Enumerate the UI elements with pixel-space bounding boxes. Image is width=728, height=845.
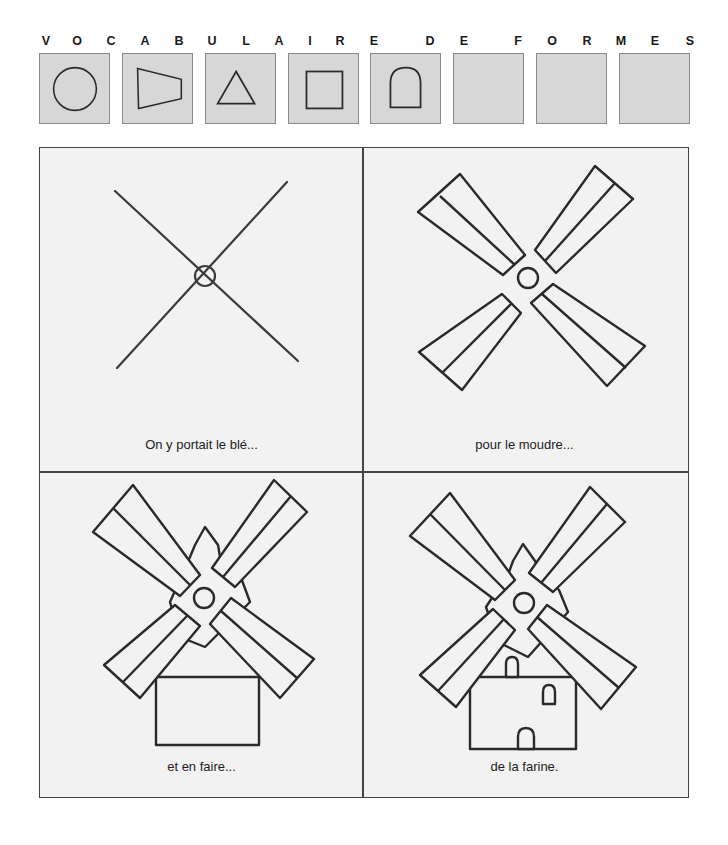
circle-icon [40, 54, 109, 123]
title-letter: E [651, 34, 659, 48]
caption-step-4: de la farine. [363, 759, 686, 774]
shape-box-empty-2 [536, 53, 607, 124]
title-letter: I [308, 34, 311, 48]
panel-step-4: de la farine. [363, 472, 686, 796]
window-lower [543, 685, 555, 704]
title-letter: A [140, 34, 149, 48]
windmill-steps-grid: On y portait le blé... pour le moudre... [39, 147, 689, 798]
title-letter: M [616, 34, 626, 48]
shape-box-empty-1 [453, 53, 524, 124]
title-letter: O [72, 34, 82, 48]
windmill-sails-drawing [363, 148, 686, 472]
title-letter: C [106, 34, 115, 48]
title-letter: F [514, 34, 522, 48]
shape-box-square [288, 53, 359, 124]
caption-step-1: On y portait le blé... [40, 437, 363, 452]
windmill-complete-drawing [363, 472, 686, 796]
title-letter: V [42, 34, 50, 48]
trapezoid-icon [123, 54, 192, 123]
caption-step-3: et en faire... [40, 759, 363, 774]
square-icon [289, 54, 358, 123]
title-letter: R [582, 34, 591, 48]
caption-step-2: pour le moudre... [363, 437, 686, 452]
title-letter: U [207, 34, 216, 48]
title-letter: A [274, 34, 283, 48]
shape-box-circle [39, 53, 110, 124]
windmill-cross-drawing [40, 148, 363, 472]
title-letter: B [174, 34, 183, 48]
arch-icon [371, 54, 440, 123]
title-letter: O [547, 34, 557, 48]
title-letter: E [460, 34, 468, 48]
shape-box-trapezoid [122, 53, 193, 124]
window-upper [506, 657, 518, 677]
title-letter: E [370, 34, 378, 48]
title-letter: L [242, 34, 250, 48]
door [518, 728, 534, 749]
panel-step-2: pour le moudre... [363, 148, 686, 472]
title-letter: D [425, 34, 434, 48]
windmill-body-drawing [40, 472, 363, 796]
title-letter: S [686, 34, 694, 48]
shape-box-triangle [205, 53, 276, 124]
panel-step-1: On y portait le blé... [40, 148, 363, 472]
panel-step-3: et en faire... [40, 472, 363, 796]
triangle-icon [206, 54, 275, 123]
shape-box-arch [370, 53, 441, 124]
title-letter: R [335, 34, 344, 48]
shape-box-empty-3 [619, 53, 690, 124]
vocabulary-title: VOCABULAIREDEFORMES [0, 34, 728, 50]
